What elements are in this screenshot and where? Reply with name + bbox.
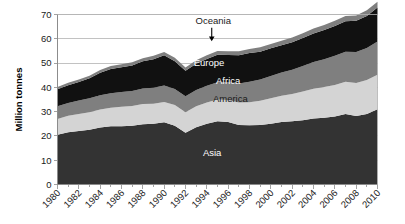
oceania-callout: Oceania <box>196 15 232 41</box>
x-tick-label-1988: 1988 <box>125 187 148 210</box>
chart-canvas: 010203040506070 198019821984198619881990… <box>0 0 405 224</box>
x-tick-label-2000: 2000 <box>253 187 276 210</box>
x-tick-label-2002: 2002 <box>274 187 297 210</box>
x-tick-label-1994: 1994 <box>189 187 212 210</box>
x-tick-label-2008: 2008 <box>338 187 361 210</box>
series-label-europe: Europe <box>194 57 225 68</box>
x-tick-label-1998: 1998 <box>232 187 255 210</box>
series-label-america: America <box>213 93 249 104</box>
x-tick-label-1986: 1986 <box>104 187 127 210</box>
series-label-asia: Asia <box>203 147 222 158</box>
y-axis-ticks: 010203040506070 <box>41 9 58 190</box>
y-tick-label-20: 20 <box>41 130 52 141</box>
y-axis-title-text: Million tonnes <box>13 68 24 132</box>
oceania-callout-label: Oceania <box>196 15 232 26</box>
x-tick-label-1996: 1996 <box>210 187 233 210</box>
y-tick-label-60: 60 <box>41 33 52 44</box>
y-tick-label-40: 40 <box>41 82 52 93</box>
x-tick-label-2006: 2006 <box>317 187 340 210</box>
series-label-africa: Africa <box>216 75 241 86</box>
x-tick-label-2010: 2010 <box>360 187 383 210</box>
y-axis-title: Million tonnes <box>13 68 24 132</box>
y-tick-label-70: 70 <box>41 9 52 20</box>
y-tick-label-50: 50 <box>41 57 52 68</box>
y-tick-label-30: 30 <box>41 106 52 117</box>
y-tick-label-10: 10 <box>41 155 52 166</box>
x-tick-label-1990: 1990 <box>146 187 169 210</box>
x-tick-label-1982: 1982 <box>61 187 84 210</box>
x-tick-label-1984: 1984 <box>82 187 105 210</box>
x-tick-label-1980: 1980 <box>40 187 63 210</box>
x-tick-label-2004: 2004 <box>296 187 319 210</box>
x-tick-label-1992: 1992 <box>168 187 191 210</box>
x-axis-ticks: 1980198219841986198819901992199419961998… <box>40 185 383 210</box>
y-tick-label-0: 0 <box>46 179 51 190</box>
stacked-area-chart: 010203040506070 198019821984198619881990… <box>0 0 405 224</box>
